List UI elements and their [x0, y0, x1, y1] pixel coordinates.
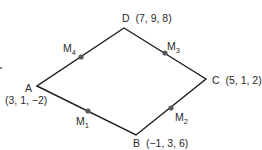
midpoint-m2-dot: [168, 105, 173, 110]
vertex-c-coords: (5, 1, 2): [226, 74, 262, 86]
midpoint-m4-label: M4: [63, 42, 76, 57]
vertex-c-name: C: [212, 74, 220, 86]
vertex-d-name: D: [122, 12, 130, 24]
vertex-d-coords: (7, 9, 8): [136, 12, 172, 24]
m1-base: M: [76, 115, 85, 127]
midpoint-m1-dot: [85, 108, 90, 113]
vertex-a-label: A: [25, 82, 32, 94]
vertex-b-name: B: [133, 137, 140, 149]
vertex-b-label: B (−1, 3, 6): [133, 137, 188, 149]
midpoint-m3-label: M3: [167, 40, 180, 55]
vertex-c-label: C (5, 1, 2): [212, 74, 262, 86]
midpoint-m2-label: M2: [175, 111, 188, 126]
m2-base: M: [175, 111, 184, 123]
m1-subscript: 1: [85, 121, 89, 130]
m2-subscript: 2: [184, 117, 188, 126]
vertex-d-label: D (7, 9, 8): [122, 12, 172, 24]
m4-subscript: 4: [72, 48, 76, 57]
stray-dot: [0, 67, 2, 69]
quadrilateral-diagram: A (3, 1, −2) B (−1, 3, 6) C (5, 1, 2) D …: [0, 0, 262, 150]
vertex-a-coords: (3, 1, −2): [5, 94, 47, 106]
midpoint-m4-dot: [78, 54, 83, 59]
vertex-b-coords: (−1, 3, 6): [146, 137, 188, 149]
m3-base: M: [167, 40, 176, 52]
m3-subscript: 3: [176, 46, 180, 55]
midpoint-m1-label: M1: [76, 115, 89, 130]
m4-base: M: [63, 42, 72, 54]
